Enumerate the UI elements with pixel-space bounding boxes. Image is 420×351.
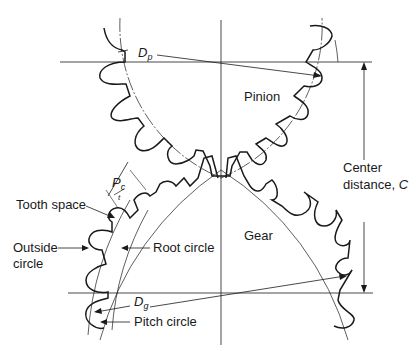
gear-root-circle xyxy=(112,210,148,330)
center-distance-arrow-down xyxy=(361,285,367,293)
gear-label: Gear xyxy=(244,228,274,243)
center-distance-label-line1: Center xyxy=(343,160,383,175)
gear-diagram: Dp Pinion Center distance, C Pc t Tooth … xyxy=(0,0,420,351)
outside-circle-label-line1: Outside xyxy=(13,240,58,255)
gear-diameter-line xyxy=(150,276,345,307)
pinion-label: Pinion xyxy=(244,89,280,104)
gear-teeth xyxy=(86,156,354,328)
circular-pitch-ext-right xyxy=(130,170,146,190)
root-circle-arrowhead xyxy=(121,245,128,251)
tooth-space-label: Tooth space xyxy=(16,197,86,212)
pitch-circle-arrowhead xyxy=(100,319,107,325)
root-circle-label: Root circle xyxy=(153,240,214,255)
pinion-outside-circle xyxy=(335,40,338,62)
circular-pitch-ext-left xyxy=(106,190,118,208)
center-distance-label-line2: distance, C xyxy=(343,177,409,192)
gear-diameter-label: Dg xyxy=(134,294,148,311)
circular-pitch-label: Pc xyxy=(112,175,126,192)
pinion-diameter-label: Dp xyxy=(138,45,152,62)
center-distance-arrow-up xyxy=(361,62,367,70)
outside-circle-arrowhead xyxy=(82,245,89,251)
pinion-diameter-line xyxy=(157,55,320,76)
outside-circle-label-line2: circle xyxy=(13,256,43,271)
tooth-space-leader xyxy=(86,206,112,217)
tooth-thickness-label: t xyxy=(118,193,121,202)
pitch-circle-label: Pitch circle xyxy=(134,314,197,329)
pinion-teeth xyxy=(100,25,332,176)
gear-dg-arrowhead xyxy=(94,308,102,314)
